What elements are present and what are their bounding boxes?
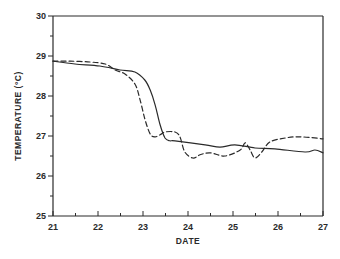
y-axis-title: TEMPERATURE (°C)	[13, 71, 23, 161]
axes: 25262728293021222324252627	[36, 11, 328, 232]
y-tick-label: 30	[36, 11, 46, 21]
x-tick-label: 21	[48, 222, 58, 232]
temperature-chart: 25262728293021222324252627 DATE TEMPERAT…	[0, 0, 340, 259]
y-tick-label: 28	[36, 91, 46, 101]
series-layer	[53, 61, 323, 158]
x-axis-title: DATE	[176, 236, 201, 246]
y-tick-label: 26	[36, 171, 46, 181]
y-tick-label: 29	[36, 51, 46, 61]
x-tick-label: 26	[273, 222, 283, 232]
x-tick-label: 27	[318, 222, 328, 232]
x-tick-label: 22	[93, 222, 103, 232]
x-tick-label: 24	[183, 222, 193, 232]
y-tick-label: 25	[36, 211, 46, 221]
chart-canvas: 25262728293021222324252627 DATE TEMPERAT…	[0, 0, 340, 259]
y-tick-label: 27	[36, 131, 46, 141]
x-tick-label: 23	[138, 222, 148, 232]
series-line-dashed	[53, 61, 323, 158]
x-tick-label: 25	[228, 222, 238, 232]
